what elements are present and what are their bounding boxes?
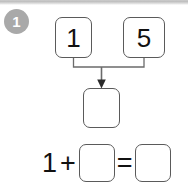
addend-box-left[interactable]: 1: [55, 17, 92, 58]
problem-number-label: 1: [12, 14, 20, 29]
plus-sign-icon: +: [60, 150, 76, 177]
scan-edge-band: [0, 0, 188, 5]
addend-right-value: 5: [137, 25, 151, 51]
sum-answer-box[interactable]: [83, 88, 120, 128]
equation-second-operand-box[interactable]: [79, 144, 115, 182]
addend-left-value: 1: [66, 25, 80, 51]
worksheet-canvas: 1 1 5 1 + =: [0, 0, 188, 187]
problem-number-badge: 1: [4, 9, 29, 34]
equation-row: 1 + =: [42, 143, 182, 183]
equals-sign-icon: =: [117, 150, 133, 177]
equation-result-box[interactable]: [135, 144, 171, 182]
equation-first-operand: 1: [42, 150, 57, 177]
bracket-path: [74, 58, 145, 67]
addend-box-right[interactable]: 5: [123, 17, 165, 58]
